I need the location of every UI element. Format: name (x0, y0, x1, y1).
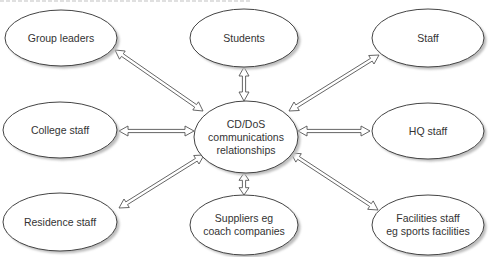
arrow-students-to-center (239, 67, 249, 101)
double-arrow-icon (291, 153, 378, 210)
node-residence-staff: Residence staff (3, 193, 120, 254)
double-arrow-icon (289, 55, 379, 111)
node-label: Students (223, 32, 264, 44)
node-label: relationships (217, 144, 276, 156)
node-label: College staff (31, 124, 89, 136)
node-facilities-staff: Facilities staffeg sports facilities (372, 195, 487, 257)
node-label: Facilities staff (396, 212, 459, 224)
node-college-staff: College staff (3, 102, 120, 161)
node-label: Suppliers eg (215, 212, 274, 224)
double-arrow-icon (298, 126, 370, 136)
arrow-hq-staff-to-center (298, 126, 370, 136)
node-hub-cd-dos: CD/DoScommunicationsrelationships (194, 101, 301, 176)
node-label: CD/DoS (227, 118, 266, 130)
node-label: HQ staff (409, 125, 447, 137)
double-arrow-icon (239, 173, 249, 195)
node-staff: Staff (372, 9, 487, 70)
double-arrow-icon (239, 67, 249, 101)
node-label: eg sports facilities (386, 225, 469, 237)
node-hq-staff: HQ staff (372, 103, 487, 162)
node-label: Residence staff (24, 216, 96, 228)
arrow-residence-staff-to-center (119, 155, 204, 208)
diagram-nodes: CD/DoScommunicationsrelationshipsGroup l… (3, 9, 487, 257)
relationship-diagram: CD/DoScommunicationsrelationshipsGroup l… (0, 0, 492, 257)
node-students: Students (190, 9, 301, 70)
arrow-group-leaders-to-center (115, 50, 203, 111)
node-group-leaders: Group leaders (5, 10, 120, 69)
node-label: Group leaders (28, 32, 95, 44)
arrow-staff-to-center (289, 55, 379, 111)
node-label: Staff (417, 32, 438, 44)
arrow-suppliers-to-center (239, 173, 249, 195)
double-arrow-icon (115, 50, 203, 111)
double-arrow-icon (119, 126, 194, 136)
node-label: communications (208, 131, 284, 143)
arrow-facilities-staff-to-center (291, 153, 378, 210)
arrow-college-staff-to-center (119, 126, 194, 136)
node-label: coach companies (203, 225, 285, 237)
node-suppliers: Suppliers egcoach companies (190, 195, 301, 257)
double-arrow-icon (119, 155, 204, 208)
